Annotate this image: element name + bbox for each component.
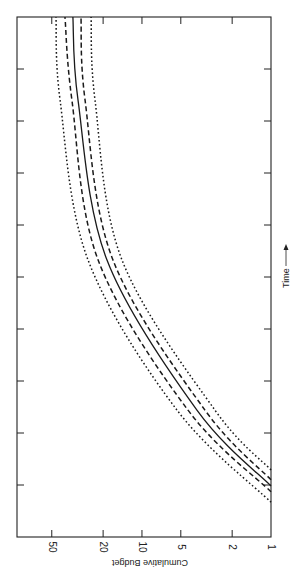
value-tick-label: 2 <box>227 544 238 550</box>
value-tick-label: 5 <box>176 544 187 550</box>
chart: 125102050 Cumulative Budget Time <box>0 0 298 569</box>
value-tick-label: 20 <box>98 541 109 553</box>
value-tick-label: 1 <box>266 544 277 550</box>
y-axis-label: Cumulative Budget <box>111 558 188 568</box>
value-tick-label: 10 <box>137 541 148 553</box>
series-estimate <box>73 17 271 486</box>
series-upper-inner-bound <box>65 17 271 492</box>
time-arrow-icon <box>284 244 289 250</box>
series-upper-outer-bound <box>56 17 271 502</box>
value-tick-label: 50 <box>47 541 58 553</box>
x-axis-label: Time <box>281 268 291 288</box>
series-lower-outer-bound <box>91 17 271 470</box>
series-lower-inner-bound <box>81 17 271 480</box>
x-axis-label-group: Time <box>281 244 291 288</box>
